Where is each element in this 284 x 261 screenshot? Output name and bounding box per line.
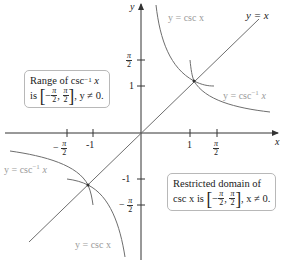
domain-annotation-box: Restricted domain of csc x is [−π2, π2],… [167,173,276,211]
arccsc-curve-right [190,60,270,112]
x-tick-neg-1: -1 [86,140,94,150]
y-tick-pi-over-2: π2 [126,52,132,69]
label-identity: y = x [246,10,269,21]
y-tick-neg-1: -1 [122,174,130,184]
x-tick-1: 1 [187,140,192,150]
left-bracket: [ [40,86,46,106]
range-annotation-box: Range of csc−1 x is [−π2, π2], y ≠ 0. [24,70,110,108]
fraction: π2 [51,87,57,104]
label-arccsc-right: y = csc−1 x [223,90,266,101]
left-bracket: [ [207,189,213,209]
diagram-canvas: y x − π2 -1 1 π2 π2 1 -1 − π2 y = csc x … [0,0,284,261]
label-arccsc-left: y = csc−1 x [4,164,47,175]
plot-area [0,0,284,261]
y-tick-1: 1 [129,81,134,91]
fraction: π2 [126,52,132,69]
x-axis-label: x [275,137,279,147]
right-bracket: ] [235,189,241,209]
label-csc-upper: y = csc x [168,13,204,23]
fraction: π2 [61,140,67,157]
y-axis-label: y [130,2,134,12]
fraction: π2 [218,190,224,207]
fraction: π2 [213,140,219,157]
range-line-2: is [−π2, π2], y ≠ 0. [30,87,104,104]
label-csc-lower: y = csc x [75,240,111,250]
y-tick-neg-pi-over-2: − π2 [119,197,133,214]
x-tick-pi-over-2: π2 [213,140,219,157]
x-tick-neg-pi-over-2: − π2 [53,140,67,157]
domain-line-2: csc x is [−π2, π2], x ≠ 0. [173,190,270,207]
fraction: π2 [127,197,133,214]
right-bracket: ] [69,86,75,106]
intersection-point-lower [87,184,90,187]
intersection-point-upper [193,80,196,83]
arccsc-curve-left [10,151,93,205]
